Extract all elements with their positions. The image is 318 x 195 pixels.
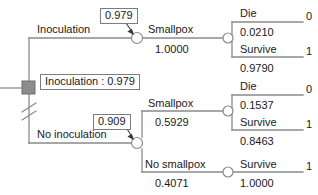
- arrow-head-inoculation: [129, 30, 134, 35]
- branch-label-inoculation: Inoculation: [37, 24, 90, 35]
- decision-tree-diagram: Inoculation No inoculation Inoculation :…: [0, 0, 318, 195]
- payoff-survive-bottom: 1: [306, 118, 312, 130]
- probability-smallpox-top: 1.0000: [155, 44, 189, 55]
- payoff-survive-top: 1: [306, 45, 312, 57]
- payoff-die-bottom: 0: [306, 83, 312, 95]
- outcome-label-survive-no-smallpox: Survive: [240, 159, 277, 170]
- root-decision-node: [22, 81, 35, 94]
- branch-label-smallpox-top: Smallpox: [148, 24, 193, 35]
- arrow-head-no-inoculation: [129, 135, 134, 140]
- root-expected-value-box: Inoculation : 0.979: [40, 74, 140, 90]
- outcome-label-survive-top: Survive: [240, 44, 277, 55]
- branch-label-smallpox-bottom: Smallpox: [148, 98, 193, 109]
- probability-survive-top: 0.9790: [240, 63, 274, 74]
- probability-survive-no-smallpox: 1.0000: [240, 178, 274, 189]
- expected-value-box-no-inoculation: 0.909: [93, 114, 131, 130]
- outcome-label-die-bottom: Die: [240, 81, 257, 92]
- outcome-label-die-top: Die: [240, 8, 257, 19]
- probability-smallpox-bottom: 0.5929: [155, 117, 189, 128]
- probability-survive-bottom: 0.8463: [240, 136, 274, 147]
- probability-die-bottom: 0.1537: [240, 100, 274, 111]
- payoff-die-top: 0: [306, 10, 312, 22]
- branch-label-no-inoculation: No inoculation: [37, 129, 107, 140]
- payoff-survive-no-smallpox: 1: [306, 160, 312, 172]
- probability-no-smallpox: 0.4071: [155, 178, 189, 189]
- branch-label-no-smallpox: No smallpox: [145, 159, 206, 170]
- expected-value-box-inoculation: 0.979: [100, 8, 138, 24]
- chance-node-smallpox-bottom: [223, 106, 233, 116]
- chance-node-no-smallpox: [223, 167, 233, 177]
- chance-node-smallpox-top: [223, 33, 233, 43]
- probability-die-top: 0.0210: [240, 27, 274, 38]
- outcome-label-survive-bottom: Survive: [240, 117, 277, 128]
